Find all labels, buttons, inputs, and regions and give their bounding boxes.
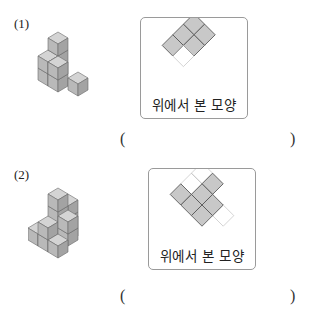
problem-number: (2) xyxy=(14,167,29,183)
answer-close-paren: ) xyxy=(290,130,295,148)
answer-blank-2[interactable] xyxy=(135,287,285,307)
answer-open-paren: ( xyxy=(120,287,125,305)
answer-blank-1[interactable] xyxy=(135,130,285,150)
answer-open-paren: ( xyxy=(120,130,125,148)
top-view-caption: 위에서 본 모양 xyxy=(149,245,255,265)
top-view-caption: 위에서 본 모양 xyxy=(141,94,247,114)
top-view-panel-1: 위에서 본 모양 xyxy=(140,17,248,119)
problem-1: (1) xyxy=(0,0,313,160)
answer-close-paren: ) xyxy=(290,287,295,305)
problem-2: (2) xyxy=(0,160,313,317)
top-view-grid-1 xyxy=(141,18,247,93)
cube-stack-figure-1 xyxy=(28,22,108,102)
cube-stack-figure-2 xyxy=(28,182,108,262)
problem-number: (1) xyxy=(14,16,29,32)
top-view-panel-2: 위에서 본 모양 xyxy=(148,168,256,270)
top-view-grid-2 xyxy=(149,169,255,244)
